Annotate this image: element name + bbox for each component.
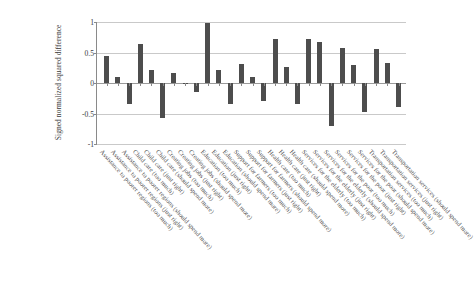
x-tick-mark [118, 83, 119, 86]
x-tick-mark [309, 83, 310, 86]
y-tick-label: 0 [90, 79, 94, 88]
plot-area: 10.50-0.5-1 [96, 22, 406, 144]
y-tick-label: -0.5 [82, 109, 94, 118]
bar [205, 23, 210, 83]
x-tick-mark [208, 83, 209, 86]
x-tick-mark [399, 83, 400, 86]
bar [295, 83, 300, 104]
x-tick-mark [354, 83, 355, 86]
x-tick-mark [253, 83, 254, 86]
x-tick-mark [320, 83, 321, 86]
x-tick-mark [376, 83, 377, 86]
y-axis-label: Signed normalized squared difference [50, 18, 70, 146]
y-tick-label: 0.5 [85, 48, 95, 57]
x-tick-mark [140, 83, 141, 86]
x-tick-mark [331, 83, 332, 86]
bar [284, 67, 289, 83]
x-tick-mark [107, 83, 108, 86]
bar [317, 42, 322, 83]
bar [160, 83, 165, 118]
bar [329, 83, 334, 126]
bar [351, 65, 356, 83]
bar [374, 49, 379, 83]
bar [104, 56, 109, 83]
x-tick-mark [286, 83, 287, 86]
bar [171, 73, 176, 83]
bar [385, 63, 390, 83]
x-tick-mark [151, 83, 152, 86]
bar [306, 39, 311, 83]
x-tick-mark [163, 83, 164, 86]
bar [340, 48, 345, 83]
x-axis-tick-labels: Assistance to poorer regions (too much)A… [96, 144, 436, 287]
x-tick-mark [297, 83, 298, 86]
bar [216, 70, 221, 83]
bar [396, 83, 401, 107]
x-tick-mark [387, 83, 388, 86]
x-tick-mark [219, 83, 220, 86]
x-tick-mark [241, 83, 242, 86]
y-axis-label-text: Signed normalized squared difference [56, 24, 65, 140]
bar-series [97, 22, 406, 144]
x-tick-mark [275, 83, 276, 86]
bar [138, 44, 143, 83]
x-tick-mark [185, 83, 186, 86]
bar [239, 64, 244, 83]
x-tick-mark [230, 83, 231, 86]
x-tick-mark [365, 83, 366, 86]
bar [228, 83, 233, 104]
x-tick-mark [196, 83, 197, 86]
x-tick-mark [342, 83, 343, 86]
bar [273, 39, 278, 83]
y-tick-label: -1 [88, 140, 94, 149]
y-tick-label: 1 [90, 18, 94, 27]
x-tick-mark [129, 83, 130, 86]
bar [149, 70, 154, 83]
bar [127, 83, 132, 104]
x-tick-mark [174, 83, 175, 86]
x-tick-mark [264, 83, 265, 86]
bar [362, 83, 367, 112]
